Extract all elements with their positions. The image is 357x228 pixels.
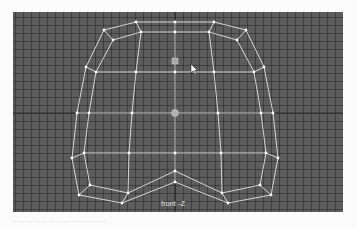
mesh-wireframe[interactable] xyxy=(13,12,343,212)
selected-component-handle[interactable] xyxy=(172,58,178,64)
camera-label: front -Z xyxy=(161,200,185,207)
mouse-cursor-icon xyxy=(191,64,198,75)
front-viewport[interactable]: front -Z xyxy=(13,12,343,212)
pivot-handle[interactable] xyxy=(172,110,179,117)
figure-caption: — — — — — — — — — — — — — xyxy=(12,218,106,224)
